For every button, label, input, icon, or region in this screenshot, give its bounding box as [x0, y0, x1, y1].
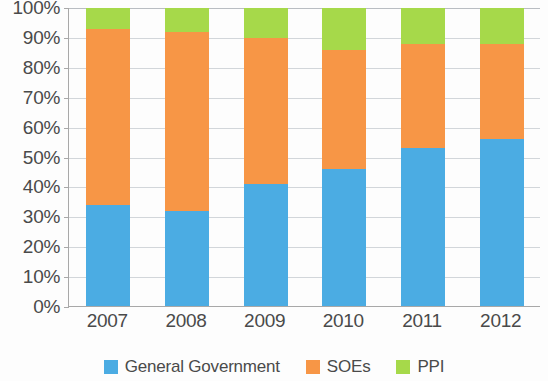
stacked-bar[interactable]	[165, 8, 209, 306]
legend-item[interactable]: PPI	[396, 357, 444, 377]
bar-segment[interactable]	[401, 148, 445, 306]
y-axis-tick-label: 50%	[0, 147, 60, 169]
stacked-bar[interactable]	[322, 8, 366, 306]
x-axis-tick-label: 2009	[244, 310, 285, 332]
y-axis-tick-label: 100%	[0, 0, 60, 19]
y-axis-tick-label: 70%	[0, 87, 60, 109]
stacked-bar-chart: 0%10%20%30%40%50%60%70%80%90%100% 200720…	[0, 0, 548, 381]
bar-slot	[226, 8, 305, 306]
y-axis-tick-label: 80%	[0, 57, 60, 79]
bar-segment[interactable]	[480, 44, 524, 139]
bar-slot	[305, 8, 384, 306]
bar-segment[interactable]	[244, 38, 288, 184]
y-axis-tick-labels: 0%10%20%30%40%50%60%70%80%90%100%	[0, 8, 60, 307]
bar-slot	[384, 8, 463, 306]
y-axis-tick-label: 30%	[0, 206, 60, 228]
bar-segment[interactable]	[322, 169, 366, 306]
x-axis-tick-label: 2010	[323, 310, 364, 332]
stacked-bar[interactable]	[86, 8, 130, 306]
legend-swatch-icon	[104, 360, 118, 374]
bar-segment[interactable]	[322, 50, 366, 169]
bar-segment[interactable]	[401, 44, 445, 148]
y-axis-tick-label: 90%	[0, 27, 60, 49]
bar-segment[interactable]	[165, 8, 209, 32]
legend-item[interactable]: General Government	[104, 357, 280, 377]
bar-segment[interactable]	[244, 184, 288, 306]
bar-slot	[462, 8, 541, 306]
bar-segment[interactable]	[322, 8, 366, 50]
bar-segment[interactable]	[401, 8, 445, 44]
legend-swatch-icon	[306, 360, 320, 374]
y-axis-tick-label: 10%	[0, 266, 60, 288]
legend-label: PPI	[417, 357, 444, 377]
y-axis-tickmark	[64, 307, 69, 308]
x-axis-tick-label: 2007	[87, 310, 128, 332]
plot-area	[68, 8, 540, 307]
legend-item[interactable]: SOEs	[306, 357, 371, 377]
y-axis-tick-label: 40%	[0, 176, 60, 198]
bar-segment[interactable]	[86, 205, 130, 306]
bar-segment[interactable]	[165, 32, 209, 211]
bar-segment[interactable]	[165, 211, 209, 306]
y-axis-tick-label: 0%	[0, 296, 60, 318]
bar-segment[interactable]	[480, 8, 524, 44]
legend-label: SOEs	[327, 357, 371, 377]
stacked-bar[interactable]	[480, 8, 524, 306]
bars-layer	[69, 8, 540, 306]
x-axis-tick-label: 2011	[402, 310, 442, 332]
bar-segment[interactable]	[480, 139, 524, 306]
x-axis-tick-label: 2008	[165, 310, 206, 332]
bar-slot	[69, 8, 148, 306]
stacked-bar[interactable]	[401, 8, 445, 306]
legend-swatch-icon	[396, 360, 410, 374]
x-axis-tick-labels: 200720082009201020112012	[68, 310, 540, 344]
plot-wrapper: 0%10%20%30%40%50%60%70%80%90%100% 200720…	[0, 0, 548, 348]
bar-segment[interactable]	[86, 29, 130, 205]
x-axis-tick-label: 2012	[480, 310, 521, 332]
y-axis-tick-label: 60%	[0, 117, 60, 139]
legend-label: General Government	[125, 357, 280, 377]
chart-legend: General GovernmentSOEsPPI	[0, 352, 548, 381]
bar-slot	[148, 8, 227, 306]
stacked-bar[interactable]	[244, 8, 288, 306]
y-axis-tick-label: 20%	[0, 236, 60, 258]
bar-segment[interactable]	[244, 8, 288, 38]
bar-segment[interactable]	[86, 8, 130, 29]
